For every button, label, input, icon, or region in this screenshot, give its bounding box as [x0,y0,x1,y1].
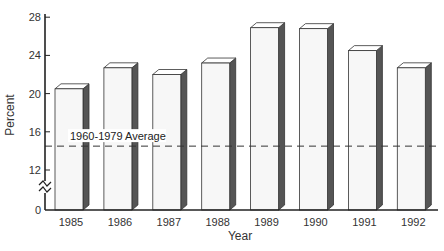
x-axis-title: Year [228,229,252,243]
bar-1987: 1987 [153,70,187,229]
x-tick-label: 1987 [157,216,181,228]
bar-front-face [300,29,328,210]
bar-top-face [202,58,236,63]
bar-top-face [153,70,187,75]
bar-top-face [55,84,89,89]
bar-front-face [153,75,181,211]
bar-front-face [202,63,230,210]
x-tick-label: 1986 [108,216,132,228]
bar-top-face [348,46,382,51]
bar-top-face [104,63,138,68]
bar-side-face [328,24,334,210]
bar-1985: 1985 [55,84,89,228]
y-tick-label: 12 [29,164,41,176]
axis-break-icon [39,181,51,193]
bar-front-face [55,89,83,210]
bar-chart: 19851986198719881989199019911992 1960-19… [0,0,444,251]
x-tick-label: 1989 [254,216,278,228]
average-label: 1960-1979 Average [70,130,166,142]
bar-1989: 1989 [251,23,285,228]
bar-1992: 1992 [397,63,431,228]
y-tick-label: 28 [29,11,41,23]
bar-1986: 1986 [104,63,138,228]
bar-1988: 1988 [202,58,236,228]
bar-side-face [181,70,187,211]
bar-top-face [397,63,431,68]
bar-front-face [397,68,425,210]
bar-front-face [251,28,279,210]
x-tick-label: 1991 [352,216,376,228]
bar-side-face [230,58,236,210]
bar-front-face [348,51,376,210]
bar-side-face [279,23,285,210]
y-tick-label: 16 [29,126,41,138]
x-tick-label: 1992 [401,216,425,228]
y-axis-title: Percent [3,94,17,136]
bar-side-face [425,63,431,210]
x-tick-label: 1990 [303,216,327,228]
bar-top-face [251,23,285,28]
bar-top-face [300,24,334,29]
bar-1990: 1990 [300,24,334,228]
bar-1991: 1991 [348,46,382,228]
y-tick-label: 20 [29,88,41,100]
bar-side-face [376,46,382,210]
x-tick-label: 1988 [205,216,229,228]
bar-side-face [83,84,89,210]
y-tick-label: 24 [29,49,41,61]
x-tick-label: 1985 [59,216,83,228]
bars-group: 19851986198719881989199019911992 [55,23,431,228]
y-tick-label: 0 [35,204,41,216]
